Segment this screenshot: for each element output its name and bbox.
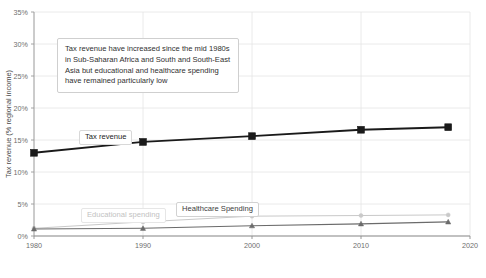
data-point-marker bbox=[31, 149, 38, 156]
y-tick-label: 20% bbox=[14, 104, 29, 113]
y-tick-label: 5% bbox=[18, 200, 29, 209]
y-tick-label: 0% bbox=[18, 232, 29, 241]
y-tick-label: 10% bbox=[14, 168, 29, 177]
y-axis-title-text: Tax revenue (% regional income) bbox=[4, 70, 13, 178]
annotation-textbox: Tax revenue have increased since the mid… bbox=[57, 38, 239, 93]
series-label-educational-spending: Educational spending bbox=[81, 208, 166, 223]
y-tick-label: 15% bbox=[14, 136, 29, 145]
y-tick-label: 25% bbox=[14, 72, 29, 81]
series-label-healthcare-spending: Healthcare Spending bbox=[176, 202, 259, 217]
data-point-marker bbox=[445, 124, 452, 131]
x-tick-label: 1990 bbox=[135, 241, 151, 250]
y-axis-ticks: 0%5%10%15%20%25%30%35% bbox=[14, 8, 34, 241]
data-point-marker bbox=[446, 213, 450, 217]
x-axis-ticks: 19801990200020102020 bbox=[26, 236, 478, 250]
data-point-marker bbox=[249, 133, 256, 140]
data-point-marker bbox=[358, 126, 365, 133]
chart-container: 0%5%10%15%20%25%30%35% 19801990200020102… bbox=[0, 0, 486, 278]
series-line bbox=[34, 222, 448, 229]
x-tick-label: 2000 bbox=[244, 241, 260, 250]
y-tick-label: 30% bbox=[14, 40, 29, 49]
y-tick-label: 35% bbox=[14, 8, 29, 17]
series-label-tax-revenue: Tax revenue bbox=[79, 130, 132, 145]
x-tick-label: 2010 bbox=[353, 241, 369, 250]
data-point-marker bbox=[140, 139, 147, 146]
x-tick-label: 1980 bbox=[26, 241, 42, 250]
y-axis-title: Tax revenue (% regional income) bbox=[4, 70, 13, 178]
x-tick-label: 2020 bbox=[462, 241, 478, 250]
data-point-marker bbox=[359, 214, 363, 218]
